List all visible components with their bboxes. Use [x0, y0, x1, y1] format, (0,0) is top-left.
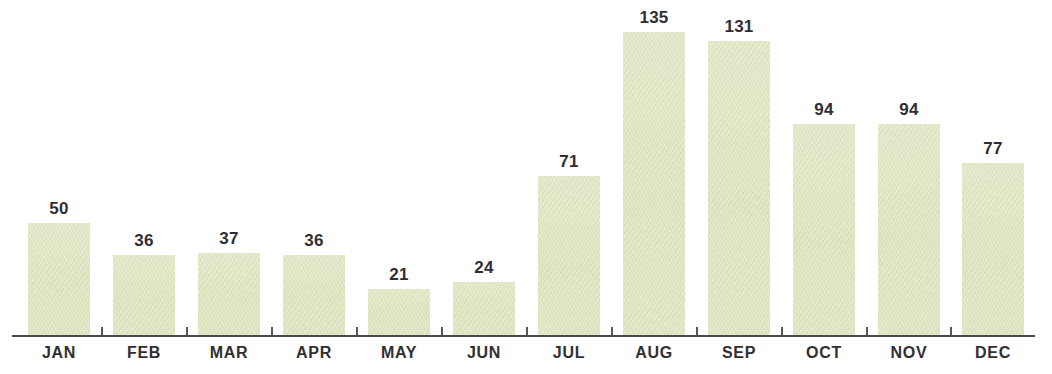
bar-value-mar: 37 — [198, 230, 260, 247]
bar-value-oct: 94 — [793, 101, 855, 118]
bar-label-may: MAY — [368, 345, 430, 361]
plot-area: 50 JAN 36 FEB 37 MAR 36 APR 21 MAY — [0, 0, 1052, 374]
bar-value-jun: 24 — [453, 259, 515, 276]
bar-label-apr: APR — [283, 345, 345, 361]
bar-value-feb: 36 — [113, 232, 175, 249]
bar-rect-jul[interactable] — [538, 176, 600, 336]
bar-label-nov: NOV — [878, 345, 940, 361]
x-axis-tick — [271, 327, 273, 335]
bar-rect-jan[interactable] — [28, 223, 90, 336]
x-axis-line — [12, 335, 1035, 337]
bar-value-apr: 36 — [283, 232, 345, 249]
bar-rect-oct[interactable] — [793, 124, 855, 336]
x-axis-tick — [186, 327, 188, 335]
bar-value-dec: 77 — [962, 140, 1024, 157]
bar-value-aug: 135 — [623, 9, 685, 26]
bar-rect-apr[interactable] — [283, 255, 345, 336]
x-axis-tick — [611, 327, 613, 335]
bar-chart: 50 JAN 36 FEB 37 MAR 36 APR 21 MAY — [0, 0, 1052, 374]
bar-label-sep: SEP — [708, 345, 770, 361]
bar-value-jan: 50 — [28, 200, 90, 217]
x-axis-tick — [781, 327, 783, 335]
bar-rect-jun[interactable] — [453, 282, 515, 336]
x-axis-tick — [441, 327, 443, 335]
bar-label-jul: JUL — [538, 345, 600, 361]
x-axis-tick — [696, 327, 698, 335]
bar-label-mar: MAR — [198, 345, 260, 361]
bar-rect-feb[interactable] — [113, 255, 175, 336]
x-axis-tick — [101, 327, 103, 335]
bar-rect-aug[interactable] — [623, 32, 685, 336]
bar-label-jan: JAN — [28, 345, 90, 361]
bar-rect-nov[interactable] — [878, 124, 940, 336]
bar-label-feb: FEB — [113, 345, 175, 361]
bar-rect-may[interactable] — [368, 289, 430, 336]
bar-label-dec: DEC — [962, 345, 1024, 361]
bar-label-aug: AUG — [623, 345, 685, 361]
bar-value-may: 21 — [368, 266, 430, 283]
bar-value-sep: 131 — [708, 18, 770, 35]
bar-rect-mar[interactable] — [198, 253, 260, 336]
bar-label-oct: OCT — [793, 345, 855, 361]
bar-value-jul: 71 — [538, 153, 600, 170]
x-axis-tick — [950, 327, 952, 335]
x-axis-tick — [356, 327, 358, 335]
bar-value-nov: 94 — [878, 101, 940, 118]
bar-rect-dec[interactable] — [962, 163, 1024, 336]
x-axis-tick — [526, 327, 528, 335]
bar-label-jun: JUN — [453, 345, 515, 361]
x-axis-tick — [866, 327, 868, 335]
bar-rect-sep[interactable] — [708, 41, 770, 336]
